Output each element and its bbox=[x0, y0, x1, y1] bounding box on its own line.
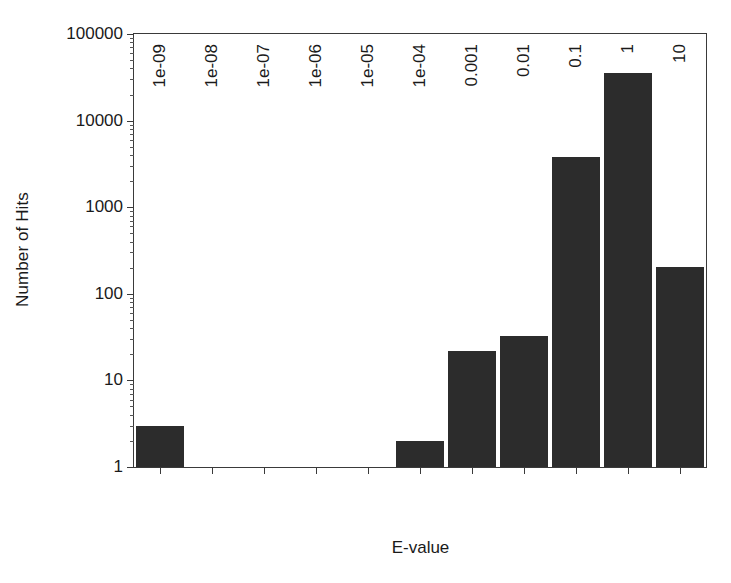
y-tick-minor bbox=[130, 406, 134, 407]
y-tick-minor bbox=[130, 307, 134, 308]
x-tick-label: 1 bbox=[618, 44, 638, 53]
y-tick-minor bbox=[130, 216, 134, 217]
y-tick-minor bbox=[130, 166, 134, 167]
x-tick bbox=[160, 467, 161, 474]
x-tick-label: 0.01 bbox=[514, 44, 534, 77]
y-tick-minor bbox=[130, 415, 134, 416]
y-tick-minor bbox=[130, 242, 134, 243]
x-tick-label: 0.001 bbox=[462, 44, 482, 87]
y-tick-minor bbox=[130, 134, 134, 135]
x-tick-label: 1e-05 bbox=[358, 44, 378, 87]
bar bbox=[552, 157, 599, 467]
y-tick-label: 10 bbox=[104, 370, 123, 390]
x-tick-label: 1e-06 bbox=[306, 44, 326, 87]
chart-figure: Number of Hits 110100100010000100000 1e-… bbox=[0, 0, 731, 583]
x-tick bbox=[628, 467, 629, 474]
y-tick-major bbox=[127, 34, 134, 35]
y-tick-minor bbox=[130, 298, 134, 299]
y-tick-major bbox=[127, 380, 134, 381]
y-tick-minor bbox=[130, 147, 134, 148]
y-tick-minor bbox=[130, 79, 134, 80]
x-tick bbox=[212, 467, 213, 474]
x-tick bbox=[524, 467, 525, 474]
y-tick-label: 100 bbox=[95, 284, 123, 304]
y-tick-minor bbox=[130, 38, 134, 39]
bar bbox=[604, 73, 651, 467]
y-tick-minor bbox=[130, 42, 134, 43]
y-tick-minor bbox=[130, 426, 134, 427]
y-tick-minor bbox=[130, 354, 134, 355]
y-tick-minor bbox=[130, 320, 134, 321]
x-tick bbox=[680, 467, 681, 474]
x-tick-label: 0.1 bbox=[566, 44, 586, 68]
bar bbox=[448, 351, 495, 467]
y-tick-minor bbox=[130, 302, 134, 303]
bar bbox=[396, 441, 443, 467]
y-tick-minor bbox=[130, 95, 134, 96]
bar bbox=[500, 336, 547, 468]
y-tick-minor bbox=[130, 47, 134, 48]
y-tick-minor bbox=[130, 313, 134, 314]
y-tick-minor bbox=[130, 155, 134, 156]
y-axis-title: Number of Hits bbox=[0, 0, 46, 583]
y-tick-minor bbox=[130, 394, 134, 395]
y-tick-minor bbox=[130, 53, 134, 54]
y-tick-minor bbox=[130, 68, 134, 69]
y-tick-major bbox=[127, 121, 134, 122]
bar bbox=[136, 426, 183, 467]
x-tick bbox=[316, 467, 317, 474]
y-tick-minor bbox=[130, 400, 134, 401]
y-tick-minor bbox=[130, 233, 134, 234]
x-tick bbox=[420, 467, 421, 474]
plot-area: 110100100010000100000 1e-091e-081e-071e-… bbox=[133, 33, 707, 468]
y-tick-minor bbox=[130, 441, 134, 442]
y-tick-minor bbox=[130, 221, 134, 222]
x-tick bbox=[576, 467, 577, 474]
y-tick-minor bbox=[130, 328, 134, 329]
y-tick-major bbox=[127, 207, 134, 208]
y-tick-minor bbox=[130, 384, 134, 385]
y-tick-minor bbox=[130, 129, 134, 130]
x-tick-label: 1e-07 bbox=[254, 44, 274, 87]
y-tick-minor bbox=[130, 252, 134, 253]
y-tick-label: 10000 bbox=[76, 111, 123, 131]
x-tick-label: 1e-04 bbox=[410, 44, 430, 87]
y-tick-label: 1000 bbox=[85, 197, 123, 217]
x-tick-label: 10 bbox=[670, 44, 690, 63]
x-axis-title: E-value bbox=[133, 538, 708, 558]
y-tick-minor bbox=[130, 60, 134, 61]
y-tick-minor bbox=[130, 140, 134, 141]
y-tick-label: 1 bbox=[114, 457, 123, 477]
y-tick-major bbox=[127, 467, 134, 468]
y-tick-major bbox=[127, 294, 134, 295]
y-tick-minor bbox=[130, 226, 134, 227]
x-tick bbox=[368, 467, 369, 474]
x-tick-label: 1e-09 bbox=[150, 44, 170, 87]
y-tick-minor bbox=[130, 268, 134, 269]
y-tick-minor bbox=[130, 211, 134, 212]
x-tick-label: 1e-08 bbox=[202, 44, 222, 87]
x-tick bbox=[264, 467, 265, 474]
y-axis-title-text: Number of Hits bbox=[13, 192, 33, 307]
y-tick-label: 100000 bbox=[66, 24, 123, 44]
x-tick bbox=[472, 467, 473, 474]
y-tick-minor bbox=[130, 125, 134, 126]
y-tick-minor bbox=[130, 389, 134, 390]
y-tick-minor bbox=[130, 339, 134, 340]
y-tick-minor bbox=[130, 181, 134, 182]
bar bbox=[656, 267, 703, 467]
